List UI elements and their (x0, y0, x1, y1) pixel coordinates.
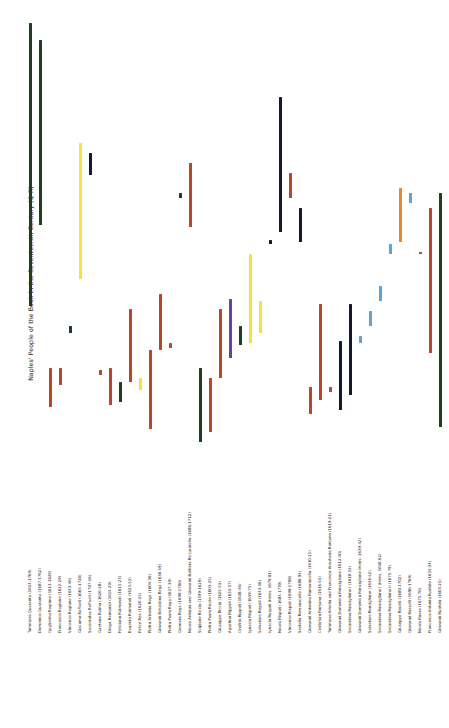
chart-category-label: Giovanni Domenico Ronciglione (Heirs, 16… (358, 538, 362, 633)
chart-category-label: Pietro Paolo Riccio (1603-25) (208, 577, 212, 633)
chart-bar (39, 40, 42, 225)
chart-bar (169, 343, 172, 348)
chart-category-label: Gennaro Rega (1698-1700) (178, 580, 182, 633)
chart-bar (379, 286, 382, 301)
chart-category-label: Ignacio Ruspoli (Heirs, 1679-81) (268, 571, 272, 633)
chart-bar (229, 299, 232, 358)
chart-bar (149, 350, 152, 429)
chart-bar (369, 311, 372, 326)
chart-bar (129, 309, 132, 383)
chart-bar (119, 382, 122, 402)
chart-category-label: Nicola Rispoli (1684-1739) (278, 581, 282, 633)
chart-category-label: Giovanni Rosselli (1696-1769) (408, 575, 412, 634)
chart-bar (159, 294, 162, 351)
chart-category-label: Tommaso Amelio and Francesco Anastasio R… (328, 513, 332, 633)
chart-bar (189, 163, 192, 227)
chart-bar (409, 193, 412, 203)
chart-category-label: Pietro Paolo Rega (1637-39) (168, 579, 172, 633)
chart-bar (439, 193, 442, 427)
chart-bar (89, 153, 92, 175)
chart-category-label: Tommaso Quaranta (1654-1769) (28, 570, 32, 633)
chart-bar (199, 368, 202, 442)
chart-category-label: Onofrio Rippoli (1638-46) (238, 584, 242, 633)
chart-category-label: Salvatore Ronciglione (1656-52) (368, 570, 372, 633)
chart-category-label: Gaetano Raimo (1626-28) (98, 582, 102, 633)
chart-category-label: Cristofaro Romano (1616-55) (318, 576, 322, 633)
chart-category-label: Secondino Ronciglione II (1675-79) (388, 565, 392, 633)
chart-bar (299, 208, 302, 242)
chart-category-label: Giacomo Raffaeli (1665-1720) (78, 574, 82, 633)
chart-bar (239, 326, 242, 346)
chart-bar (279, 97, 282, 232)
chart-category-label: Vincenzo Rispoli (1698-1708) (288, 576, 292, 633)
chart-bar (179, 193, 182, 198)
chart-category-label: Secondino Ronciglione I (1618-55) (348, 566, 352, 633)
chart-bar (99, 370, 102, 375)
chart-bar (249, 254, 252, 343)
chart-category-label: Diego Raimondi (1614-29) (108, 582, 112, 633)
chart-bar (329, 387, 332, 392)
chart-figure: Naples' People of the Book in the Sevent… (0, 0, 449, 728)
chart-bar (69, 326, 72, 333)
chart-category-label: Sacerdotus Raffaeli (1707-16) (88, 575, 92, 633)
chart-category-label: Secondino Ronciglione I (Heirs, 1656-62) (378, 554, 382, 633)
chart-category-label: Giovanni Domenico Ronciglione (1612-40) (338, 551, 342, 633)
chart-category-label: Guglielmo Ragione (1613-1629) (48, 571, 52, 633)
chart-category-label: Vincenzo Ragione (1643-46) (68, 578, 72, 633)
chart-category-labels: Tommaso Quaranta (1654-1769)Domenico Qua… (22, 513, 449, 633)
chart-category-label: Felice Rea (1620-25) (138, 593, 142, 633)
chart-bar (349, 304, 352, 395)
chart-category-label: Giuseppe Riccio (1625-53) (218, 581, 222, 633)
chart-bar (389, 244, 392, 254)
chart-category-label: Giovanni Antonino Romanocello (1610-21) (308, 550, 312, 633)
chart-category-label: Agostino Rippoli (1633-57) (228, 581, 232, 633)
chart-category-label: Eugenio Raimondi (1623-53) (128, 577, 132, 633)
chart-category-label: Nicola Rosso (1675-76) (418, 588, 422, 633)
chart-category-label: Pietro Antonio Rega (1604-36) (148, 574, 152, 633)
chart-bar (259, 301, 262, 333)
chart-bar (209, 378, 212, 432)
chart-category-label: Giuseppe Roselli (1680-1702) (398, 575, 402, 633)
chart-bar (29, 23, 32, 306)
chart-category-label: Scipione Riccio (1599-1629) (198, 578, 202, 633)
chart-bar (429, 208, 432, 353)
chart-category-label: Francesco Antonio Ruotolo (1635-34) (428, 561, 432, 633)
chart-category-label: Salvatore Rispoli (1643-56) (258, 580, 262, 633)
chart-bar (139, 378, 142, 390)
chart-bar (419, 252, 422, 255)
chart-category-label: Feliciano Raimondi (1615-23) (118, 576, 122, 633)
chart-category-label: Sestelio Romanocello (1680-94) (298, 571, 302, 633)
chart-category-label: Ignazio Rispoli (1639-75) (248, 584, 252, 633)
chart-bar (309, 387, 312, 414)
chart-category-label: Giovanni Berardino Rega (1636-59) (158, 564, 162, 633)
chart-bar (399, 188, 402, 242)
chart-category-label: Domenico Quaranta (1687-1762) (38, 568, 42, 633)
chart-plot-area (22, 8, 449, 513)
chart-category-label: Giovanni Ruotolo (1605-25) (438, 579, 442, 633)
chart-bar (269, 240, 272, 245)
chart-bar (49, 368, 52, 407)
chart-category-label: Francesco Ragione (1622-29) (58, 576, 62, 633)
chart-bar (59, 368, 62, 385)
chart-bar (219, 309, 222, 378)
chart-bar (109, 368, 112, 405)
chart-bar (339, 341, 342, 410)
chart-bar (359, 336, 362, 343)
chart-bar (289, 173, 292, 198)
chart-category-label: Nicola Antonio and Giovanni Battista Ric… (188, 512, 192, 633)
chart-bar (319, 304, 322, 400)
chart-bar (79, 143, 82, 278)
